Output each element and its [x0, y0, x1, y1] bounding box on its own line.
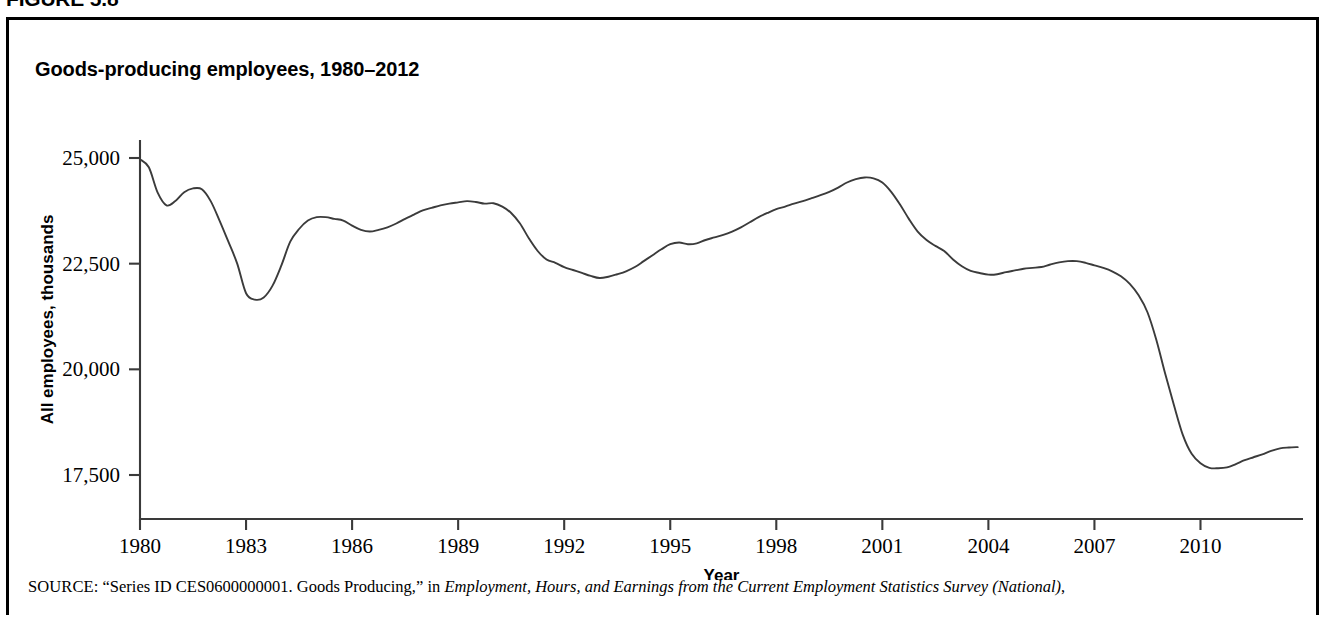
y-tick-label: 22,500	[62, 252, 120, 276]
x-tick-label: 2007	[1073, 534, 1115, 558]
figure-number-label: FIGURE 5.8	[6, 0, 118, 11]
x-tick-label: 2001	[861, 534, 903, 558]
x-tick-label: 1998	[755, 534, 797, 558]
source-prefix: SOURCE:	[28, 577, 98, 596]
x-tick-label: 1983	[225, 534, 267, 558]
y-tick-label: 20,000	[62, 357, 120, 381]
source-publication-title: Employment, Hours, and Earnings from the…	[444, 577, 1061, 596]
x-tick-label: 1986	[331, 534, 373, 558]
y-tick-label: 17,500	[62, 463, 120, 487]
y-axis-ticks: 17,50020,00022,50025,000	[62, 146, 140, 487]
source-note: SOURCE: “Series ID CES0600000001. Goods …	[28, 576, 1300, 597]
source-quoted-text: “Series ID CES0600000001. Goods Producin…	[103, 577, 445, 596]
x-tick-label: 1995	[649, 534, 691, 558]
line-chart-svg: 17,50020,00022,50025,000 198019831986198…	[9, 20, 1329, 580]
chart-plot-area: 17,50020,00022,50025,000 198019831986198…	[9, 20, 1329, 580]
x-tick-label: 2010	[1179, 534, 1221, 558]
x-axis-ticks: 1980198319861989199219951998200120042007…	[119, 519, 1221, 558]
x-tick-label: 2004	[967, 534, 1010, 558]
x-tick-label: 1989	[437, 534, 479, 558]
axis-lines	[140, 140, 1303, 519]
x-tick-label: 1980	[119, 534, 161, 558]
source-suffix: ,	[1061, 577, 1065, 596]
data-series-line	[140, 159, 1298, 468]
y-tick-label: 25,000	[62, 146, 120, 170]
figure-container: Goods-producing employees, 1980–2012 17,…	[6, 17, 1319, 615]
x-tick-label: 1992	[543, 534, 585, 558]
y-axis-title: All employees, thousands	[38, 215, 57, 425]
